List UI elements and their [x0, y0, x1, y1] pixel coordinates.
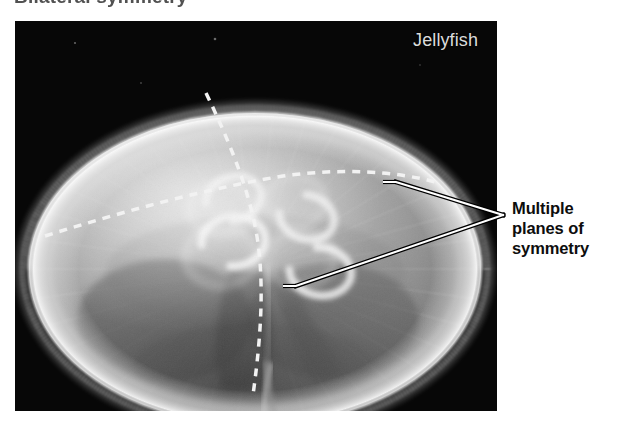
- cropped-caption-text: Bilateral symmetry: [14, 0, 434, 8]
- photo-label: Jellyfish: [413, 30, 478, 51]
- annotation-line-3: symmetry: [512, 238, 618, 258]
- jellyfish-photo-graphic: [15, 21, 497, 411]
- jellyfish-photo: Jellyfish: [15, 21, 497, 411]
- figure-page: Bilateral symmetry: [0, 0, 619, 432]
- annotation-line-2: planes of: [512, 218, 618, 238]
- annotation-line-1: Multiple: [512, 198, 618, 218]
- annotation-label: Multiple planes of symmetry: [512, 198, 618, 258]
